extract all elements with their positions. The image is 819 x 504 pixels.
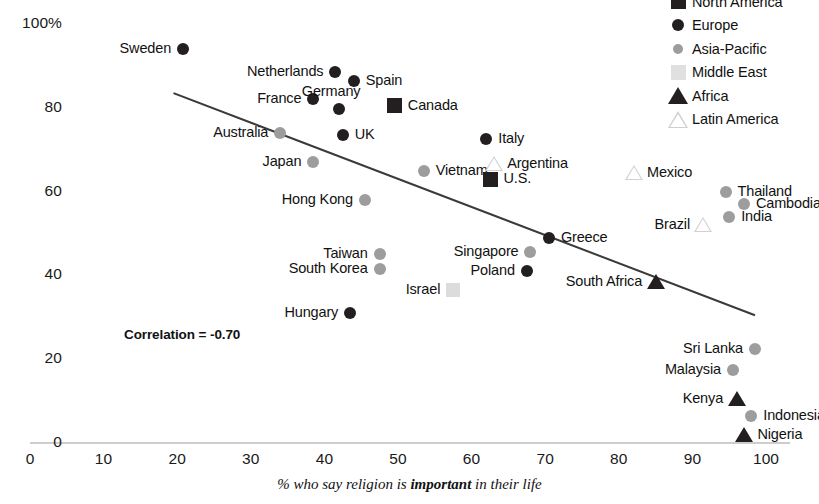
data-point-label: Indonesia <box>763 407 819 423</box>
data-point-marker <box>418 165 430 177</box>
data-point-label: Hong Kong <box>282 191 353 207</box>
y-axis-tick-label: 100% <box>0 14 62 32</box>
data-point-label: UK <box>355 126 375 142</box>
data-point-marker <box>728 391 746 406</box>
data-point-label: Malaysia <box>665 361 721 377</box>
data-point-marker <box>694 217 712 232</box>
x-axis-title-part3: in their life <box>471 476 541 492</box>
data-point-label: Israel <box>406 281 441 297</box>
data-point-label: Singapore <box>454 243 519 259</box>
data-point-label: Canada <box>408 97 458 113</box>
data-point-marker <box>749 343 761 355</box>
data-point-label: France <box>257 90 301 106</box>
data-point-marker <box>387 98 402 113</box>
legend-swatch-glyph <box>672 19 684 31</box>
data-point-marker <box>485 156 503 171</box>
data-point-marker <box>745 410 757 422</box>
data-point-marker <box>647 274 665 289</box>
data-point-marker <box>446 283 460 297</box>
x-axis-tick-label: 0 <box>0 450 60 468</box>
legend-item[interactable]: Europe <box>664 14 814 38</box>
data-point-label: Italy <box>498 130 524 146</box>
x-axis-tick-label: 30 <box>221 450 281 468</box>
correlation-annotation: Correlation = -0.70 <box>124 327 240 342</box>
data-point-label: South Africa <box>566 273 642 289</box>
data-point-label: Greece <box>561 229 608 245</box>
legend-swatch-glyph <box>671 0 686 9</box>
legend-item-label: Europe <box>692 17 738 33</box>
data-point-label: Argentina <box>507 155 568 171</box>
legend-item[interactable]: Africa <box>664 84 814 108</box>
data-point-marker <box>521 265 533 277</box>
data-point-marker <box>720 186 732 198</box>
data-point-marker <box>374 263 386 275</box>
data-point-marker <box>359 194 371 206</box>
data-point-marker <box>727 364 739 376</box>
legend-item-label: Latin America <box>692 111 779 127</box>
legend-item[interactable]: North America <box>664 0 814 14</box>
legend-item-label: Asia-Pacific <box>692 41 767 57</box>
x-axis-tick-label: 40 <box>294 450 354 468</box>
y-axis-tick-label: 40 <box>0 265 62 283</box>
x-axis-tick-label: 50 <box>368 450 428 468</box>
data-point-label: Kenya <box>683 390 723 406</box>
data-point-label: Sweden <box>120 40 172 56</box>
data-point-marker <box>723 211 735 223</box>
legend-marker-icon <box>664 14 692 36</box>
legend-marker-icon <box>664 108 692 130</box>
legend-swatch-glyph <box>668 111 688 128</box>
y-axis-tick-label: 60 <box>0 182 62 200</box>
legend-swatch-glyph <box>671 65 686 80</box>
data-point-label: Poland <box>471 262 515 278</box>
data-point-label: Australia <box>213 124 268 140</box>
plot-area: 100%806040200 0102030405060708090100 Swe… <box>0 0 819 504</box>
data-point-label: Sri Lanka <box>683 340 743 356</box>
data-point-label: Nigeria <box>757 426 802 442</box>
data-point-label: Vietnam <box>436 162 488 178</box>
x-axis-tick-label: 10 <box>74 450 134 468</box>
data-point-label: Germany <box>302 83 361 99</box>
legend-marker-icon <box>664 61 692 83</box>
data-point-marker <box>374 248 386 260</box>
data-point-label: South Korea <box>289 260 368 276</box>
data-point-label: Spain <box>366 72 402 88</box>
legend-item[interactable]: Asia-Pacific <box>664 37 814 61</box>
legend-item-label: Middle East <box>692 64 767 80</box>
x-axis-title: % who say religion is important in their… <box>0 476 819 493</box>
data-point-label: Brazil <box>655 216 690 232</box>
y-axis-tick-label: 20 <box>0 349 62 367</box>
legend-marker-icon <box>664 85 692 107</box>
legend-marker-icon <box>664 0 692 13</box>
legend-item[interactable]: Middle East <box>664 61 814 85</box>
x-axis-title-emphasis: important <box>410 476 471 492</box>
data-point-marker <box>333 103 345 115</box>
data-point-label: Mexico <box>647 164 692 180</box>
x-axis-tick-label: 100 <box>736 450 796 468</box>
x-axis-tick-label: 70 <box>515 450 575 468</box>
scatter-chart: 100%806040200 0102030405060708090100 Swe… <box>0 0 819 504</box>
data-point-marker <box>483 172 498 187</box>
data-point-marker <box>735 427 753 442</box>
y-axis-tick-label: 80 <box>0 98 62 116</box>
data-point-label: U.S. <box>504 170 532 186</box>
data-point-label: Netherlands <box>247 63 324 79</box>
x-axis-tick-label: 90 <box>662 450 722 468</box>
data-point-marker <box>337 129 349 141</box>
data-point-label: Taiwan <box>323 245 367 261</box>
legend-swatch-glyph <box>668 87 688 104</box>
x-axis-tick-label: 80 <box>589 450 649 468</box>
legend-item-label: North America <box>692 0 783 10</box>
data-point-label: India <box>741 208 772 224</box>
legend-swatch-glyph <box>673 44 683 54</box>
chart-legend: North AmericaEuropeAsia-PacificMiddle Ea… <box>664 0 814 131</box>
x-axis-tick-label: 20 <box>147 450 207 468</box>
data-point-label: Hungary <box>284 304 338 320</box>
legend-marker-icon <box>664 38 692 60</box>
data-point-marker <box>625 165 643 180</box>
data-point-label: Japan <box>263 153 302 169</box>
y-axis-tick-label: 0 <box>0 433 62 451</box>
x-axis-tick-label: 60 <box>442 450 502 468</box>
legend-item[interactable]: Latin America <box>664 108 814 132</box>
legend-item-label: Africa <box>692 88 728 104</box>
data-point-marker <box>543 232 555 244</box>
